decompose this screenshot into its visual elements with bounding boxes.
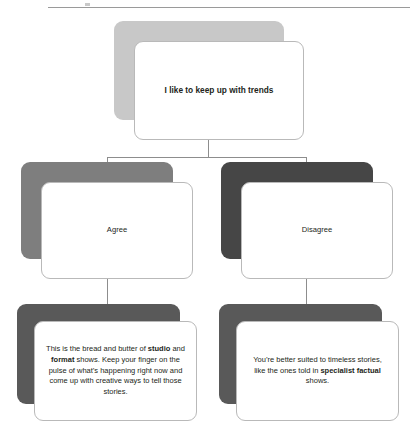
header-tick-mark	[85, 3, 90, 6]
node-disagree-outcome-card[interactable]: You’re better suited to timeless stories…	[236, 321, 399, 421]
header-divider	[48, 7, 410, 8]
node-root[interactable]: I like to keep up with trends	[114, 21, 304, 140]
node-agree-outcome-text: This is the bread and butter of studio a…	[45, 344, 186, 397]
node-disagree-card[interactable]: Disagree	[241, 182, 393, 279]
node-agree-outcome[interactable]: This is the bread and butter of studio a…	[17, 304, 197, 421]
node-disagree[interactable]: Disagree	[221, 162, 393, 279]
node-disagree-label: Disagree	[302, 225, 332, 236]
node-agree-label: Agree	[107, 225, 127, 236]
connector-root-stem	[208, 140, 209, 157]
node-agree[interactable]: Agree	[21, 162, 193, 279]
node-agree-outcome-card[interactable]: This is the bread and butter of studio a…	[34, 321, 197, 421]
node-root-label: I like to keep up with trends	[165, 85, 274, 97]
connector-branch-bar	[107, 157, 306, 158]
node-disagree-outcome-text: You’re better suited to timeless stories…	[247, 355, 388, 387]
decision-tree-flowchart: I like to keep up with trends Agree Disa…	[0, 0, 417, 433]
node-agree-card[interactable]: Agree	[41, 182, 193, 279]
node-root-card[interactable]: I like to keep up with trends	[134, 41, 304, 140]
node-disagree-outcome[interactable]: You’re better suited to timeless stories…	[219, 304, 399, 421]
